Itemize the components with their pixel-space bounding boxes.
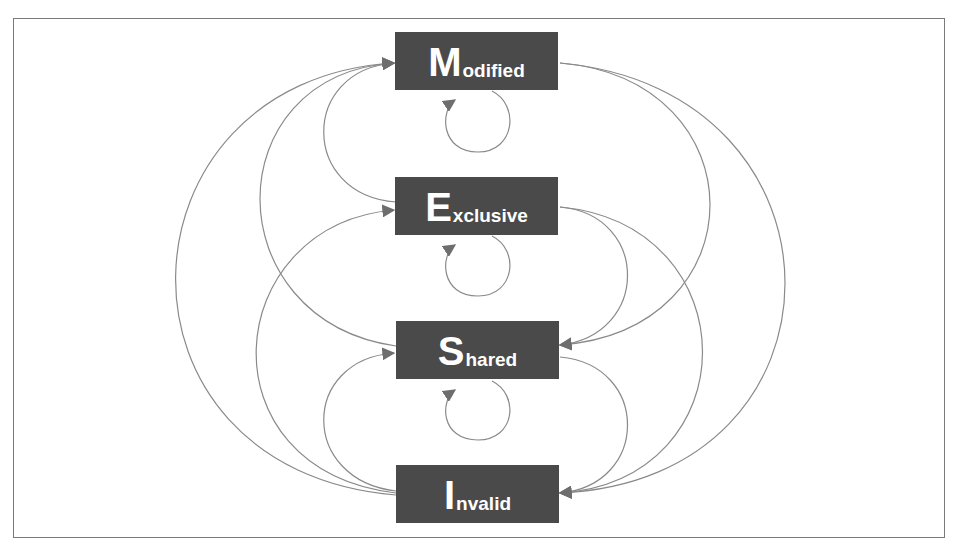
state-label-rest: nvalid <box>456 494 511 513</box>
state-modified: Modified <box>395 32 558 90</box>
state-initial: M <box>428 44 461 80</box>
state-label-rest: hared <box>465 350 517 369</box>
edge-invalid-to-modified <box>176 63 396 495</box>
edge-shared-to-modified <box>260 63 396 346</box>
state-exclusive: Exclusive <box>395 177 558 235</box>
state-label-rest: xclusive <box>453 206 528 225</box>
state-label-rest: odified <box>463 61 525 80</box>
edge-invalid-to-shared <box>324 353 396 491</box>
state-shared: Shared <box>396 321 559 379</box>
edge-shared-self-loop <box>446 381 510 440</box>
edge-modified-self-loop <box>446 91 510 152</box>
state-initial: I <box>444 477 455 513</box>
edge-invalid-to-exclusive <box>256 210 396 493</box>
state-initial: S <box>438 333 465 369</box>
state-invalid: Invalid <box>396 465 559 523</box>
edge-exclusive-to-invalid <box>560 207 703 493</box>
edge-shared-to-invalid <box>560 357 628 493</box>
edge-exclusive-to-modified <box>324 63 396 202</box>
edge-exclusive-self-loop <box>446 236 510 296</box>
state-initial: E <box>425 189 452 225</box>
edge-exclusive-to-shared <box>560 207 628 345</box>
edge-modified-to-invalid <box>560 63 785 493</box>
